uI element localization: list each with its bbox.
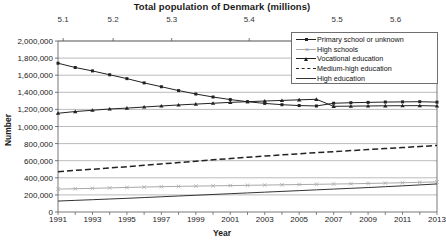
legend-item-high-education: High education xyxy=(295,73,435,83)
data-point-marker xyxy=(108,73,111,76)
legend-item-medium-high-education: Medium-high education xyxy=(295,64,435,74)
legend-label: High schools xyxy=(317,45,358,54)
data-point-marker xyxy=(125,77,128,80)
chart-legend: Primary school or unknown × High schools… xyxy=(291,32,438,84)
legend-item-high-schools: × High schools xyxy=(295,45,435,55)
legend-label: High education xyxy=(317,74,365,83)
series-line-medium-high-education xyxy=(58,145,437,171)
data-point-marker xyxy=(367,101,370,104)
data-point-marker xyxy=(212,96,215,99)
data-point-marker xyxy=(160,85,163,88)
legend-label: Medium-high education xyxy=(317,64,392,73)
data-point-marker xyxy=(349,101,352,104)
legend-item-primary-school: Primary school or unknown xyxy=(295,35,435,45)
data-point-marker xyxy=(384,101,387,104)
legend-label: Primary school or unknown xyxy=(317,35,404,44)
data-point-marker xyxy=(177,89,180,92)
data-point-marker xyxy=(298,104,301,107)
data-point-marker xyxy=(280,103,283,106)
legend-key-square-marker-icon xyxy=(295,35,317,44)
data-point-marker xyxy=(91,69,94,72)
series-line-high-education xyxy=(58,184,437,201)
legend-key-solid-line-icon xyxy=(295,74,317,83)
data-point-marker xyxy=(194,93,197,96)
data-point-marker xyxy=(143,81,146,84)
legend-label: Vocational education xyxy=(317,54,383,63)
data-point-marker xyxy=(315,104,318,107)
legend-key-dashed-line-icon xyxy=(295,64,317,73)
data-point-marker xyxy=(74,66,77,69)
legend-item-vocational-education: Vocational education xyxy=(295,54,435,64)
data-point-marker xyxy=(436,101,439,104)
data-point-marker xyxy=(332,102,335,105)
data-point-marker xyxy=(401,100,404,103)
legend-key-x-marker-icon: × xyxy=(295,45,317,54)
legend-key-triangle-marker-icon xyxy=(295,54,317,63)
data-point-marker xyxy=(418,100,421,103)
data-point-marker xyxy=(57,62,60,65)
